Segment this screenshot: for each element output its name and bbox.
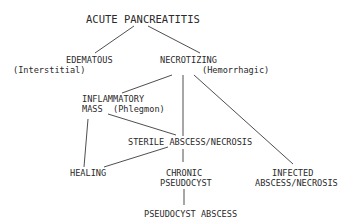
- edge-sterile-to-healing: [104, 147, 168, 167]
- title-acute-pancreatitis: ACUTE PANCREATITIS: [86, 14, 200, 25]
- node-edematous-sub: (Interstitial): [13, 66, 85, 75]
- node-chronic: CHRONIC: [166, 169, 202, 178]
- node-healing: HEALING: [70, 169, 106, 178]
- node-edematous: EDEMATOUS: [66, 56, 113, 65]
- node-sterile: STERILE ABSCESS/NECROSIS: [128, 138, 252, 147]
- node-pseudocyst: PSEUDOCYST: [160, 179, 212, 188]
- edge-necrotizing-to-infected: [194, 75, 293, 164]
- edge-acute-to-necrotizing: [148, 26, 200, 53]
- connector-lines: [0, 0, 351, 222]
- node-necrotizing: NECROTIZING: [160, 56, 217, 65]
- edge-mass-to-sterile: [108, 114, 176, 135]
- edge-acute-to-edematous: [95, 26, 134, 53]
- node-infected: INFECTED: [272, 169, 313, 178]
- edge-mass-to-healing: [84, 119, 88, 167]
- node-mass-sub: (Phlegmon): [113, 105, 165, 114]
- node-inflammatory: INFLAMMATORY: [82, 95, 144, 104]
- edge-necrotizing-to-inflammatory-mass: [122, 75, 172, 93]
- node-necrotizing-sub: (Hemorrhagic): [202, 66, 269, 75]
- pancreatitis-flow-diagram: ACUTE PANCREATITIS EDEMATOUS (Interstiti…: [0, 0, 351, 222]
- node-mass: MASS: [82, 105, 103, 114]
- node-pseudocyst-abscess: PSEUDOCYST ABSCESS: [144, 210, 237, 219]
- node-infected-abscess: ABSCESS/NECROSIS: [255, 179, 338, 188]
